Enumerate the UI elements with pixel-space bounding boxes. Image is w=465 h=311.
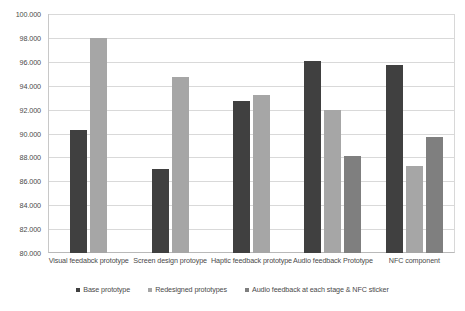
bar[interactable]	[324, 110, 341, 253]
bar[interactable]	[90, 38, 107, 253]
bar[interactable]	[253, 95, 270, 253]
bar[interactable]	[152, 169, 169, 253]
chart-legend: Base prototypeRedesigned prototypesAudio…	[0, 285, 465, 294]
bar-group	[48, 14, 129, 253]
bar[interactable]	[386, 65, 403, 253]
legend-swatch-icon	[245, 288, 249, 292]
y-tick-label: 92.000	[20, 105, 41, 114]
bar[interactable]	[233, 101, 250, 253]
bar-groups	[48, 14, 455, 253]
bar[interactable]	[70, 130, 87, 253]
y-tick-label: 98.000	[20, 33, 41, 42]
bar[interactable]	[172, 77, 189, 253]
legend-item[interactable]: Audio feedback at each stage & NFC stick…	[245, 285, 389, 294]
x-tick-label: Screen design protoype	[129, 256, 210, 265]
bar-group	[374, 14, 455, 253]
y-axis: 100.00098.00096.00094.00092.00090.00088.…	[0, 0, 45, 260]
x-tick-label: Audio feedback Prototype	[292, 256, 373, 265]
y-tick-label: 84.000	[20, 201, 41, 210]
y-tick-label: 96.000	[20, 57, 41, 66]
bar-group	[211, 14, 292, 253]
x-tick-label: NFC component	[374, 256, 455, 265]
legend-label: Redesigned prototypes	[155, 285, 227, 294]
x-tick-label: Haptic feedback prototype	[211, 256, 292, 265]
bar-group	[292, 14, 373, 253]
legend-label: Audio feedback at each stage & NFC stick…	[252, 285, 389, 294]
legend-label: Base prototype	[83, 285, 130, 294]
legend-swatch-icon	[148, 288, 152, 292]
legend-item[interactable]: Redesigned prototypes	[148, 285, 227, 294]
y-tick-label: 82.000	[20, 225, 41, 234]
y-tick-label: 86.000	[20, 177, 41, 186]
bar[interactable]	[426, 137, 443, 253]
legend-item[interactable]: Base prototype	[76, 285, 130, 294]
bar-group	[129, 14, 210, 253]
x-axis: Visual feedabck prototypeScreen design p…	[48, 256, 455, 265]
legend-swatch-icon	[76, 288, 80, 292]
y-tick-label: 100.000	[16, 10, 41, 19]
bar[interactable]	[344, 156, 361, 253]
bar-chart: 100.00098.00096.00094.00092.00090.00088.…	[0, 0, 465, 311]
x-tick-label: Visual feedabck prototype	[48, 256, 129, 265]
y-tick-label: 94.000	[20, 81, 41, 90]
y-tick-label: 90.000	[20, 129, 41, 138]
bar[interactable]	[304, 61, 321, 253]
bar[interactable]	[406, 166, 423, 253]
y-tick-label: 80.000	[20, 249, 41, 258]
y-tick-label: 88.000	[20, 153, 41, 162]
